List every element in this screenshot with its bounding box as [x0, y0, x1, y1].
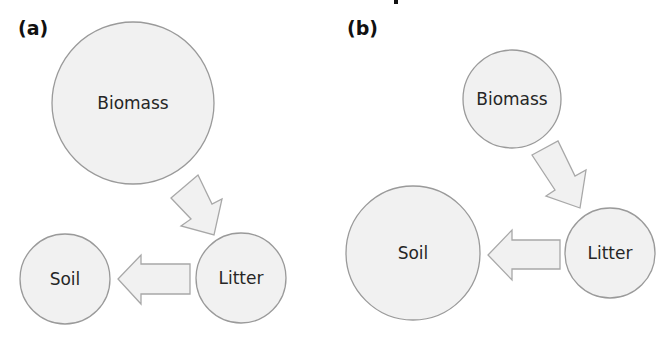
- panel-b-label: (b): [347, 17, 378, 39]
- panel-a-label: (a): [18, 17, 48, 39]
- panel-a-litter-label: Litter: [219, 268, 264, 288]
- panel-b-biomass-label: Biomass: [476, 89, 548, 109]
- panel-a-biomass-label: Biomass: [97, 93, 169, 113]
- cropped-text-fragment: [394, 0, 398, 4]
- panel-a-node-soil: Soil: [20, 234, 110, 324]
- panel-a-node-litter: Litter: [196, 233, 286, 323]
- panel-b-node-biomass: Biomass: [463, 50, 561, 148]
- panel-a: (a) Biomass Litter Soil: [18, 17, 286, 324]
- panel-b-arrow-litter-to-soil: [488, 230, 560, 280]
- panel-b: (b) Biomass Litter Soil: [346, 17, 655, 320]
- panel-a-arrow-biomass-to-litter: [171, 175, 222, 235]
- panel-a-arrow-litter-to-soil: [118, 255, 190, 304]
- panel-b-arrow-biomass-to-litter: [532, 141, 586, 208]
- panel-a-node-biomass: Biomass: [52, 22, 214, 184]
- panel-a-soil-label: Soil: [50, 269, 81, 289]
- panel-b-node-soil: Soil: [346, 186, 480, 320]
- panel-b-node-litter: Litter: [565, 208, 655, 298]
- panel-b-litter-label: Litter: [588, 243, 633, 263]
- carbon-flow-diagram: (a) Biomass Litter Soil (b) Biomass: [0, 0, 664, 341]
- panel-b-soil-label: Soil: [398, 243, 429, 263]
